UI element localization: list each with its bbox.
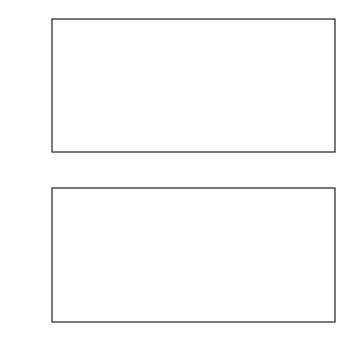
top-panel bbox=[0, 0, 335, 152]
light-curve-figure bbox=[0, 0, 352, 357]
bottom-panel bbox=[52, 188, 335, 322]
top-panel-frame bbox=[52, 19, 335, 152]
bottom-panel-frame bbox=[52, 188, 335, 322]
